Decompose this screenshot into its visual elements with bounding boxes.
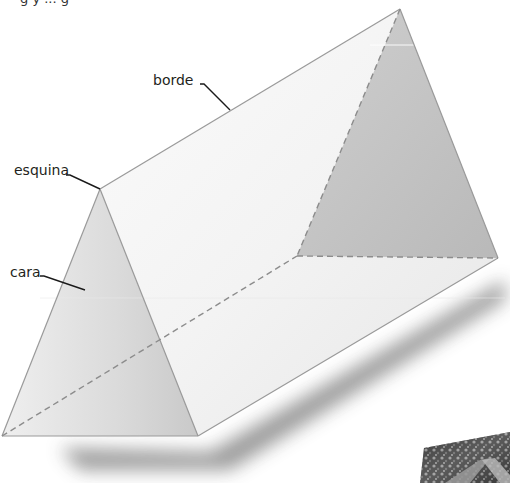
inset-photo	[420, 432, 510, 483]
label-vertex: esquina	[14, 163, 69, 177]
prism-drawing	[0, 0, 510, 483]
prism-figure: g y ... g	[0, 0, 510, 483]
label-face: cara	[10, 265, 41, 279]
label-edge: borde	[153, 73, 193, 87]
